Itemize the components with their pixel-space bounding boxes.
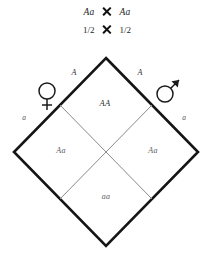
- allele-label-top-left: A: [72, 68, 77, 77]
- female-venus-icon: [36, 81, 58, 111]
- offspring-cell-left: Aa: [56, 146, 66, 155]
- allele-label-top-right: A: [138, 68, 143, 77]
- allele-label-bottom-left: a: [22, 113, 26, 122]
- offspring-cell-bottom: aa: [102, 192, 111, 201]
- offspring-cell-right: Aa: [148, 146, 158, 155]
- male-mars-icon: [154, 77, 182, 105]
- punnett-square-figure: Aa Aa 1/2 1/2 A A a a AA Aa Aa aa: [0, 0, 214, 259]
- allele-label-bottom-right: a: [182, 113, 186, 122]
- offspring-cell-top: AA: [100, 98, 111, 108]
- punnett-diamond-graphic: [0, 0, 214, 259]
